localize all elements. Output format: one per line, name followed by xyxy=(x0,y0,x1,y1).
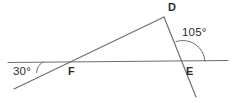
slanted-ray-through-F-to-D xyxy=(14,17,164,89)
angle-label-105: 105° xyxy=(182,27,207,39)
point-label-E: E xyxy=(186,66,194,77)
geometry-diagram: D F E 30° 105° xyxy=(0,0,235,103)
angle-arc-30-icon xyxy=(37,62,43,73)
point-label-D: D xyxy=(168,2,176,13)
point-label-F: F xyxy=(68,66,75,77)
horizontal-transversal-line xyxy=(8,61,228,63)
geometry-canvas xyxy=(0,0,235,103)
angle-label-30: 30° xyxy=(13,66,31,78)
